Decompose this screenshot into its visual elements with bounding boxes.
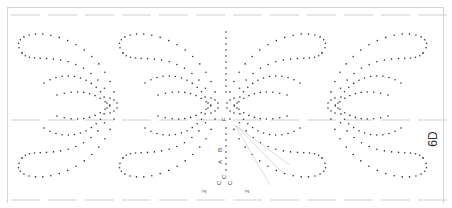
guide-letter: F: [221, 117, 227, 121]
guide-letter: C: [216, 180, 222, 185]
guide-letter: B: [217, 148, 223, 152]
guide-letter: C: [221, 174, 227, 179]
guide-letter: A: [217, 160, 223, 164]
stencil-sheet: FBACCC22 6D: [0, 0, 452, 208]
dot-pattern-art: FBACCC22: [0, 0, 452, 208]
guide-letter: 2: [201, 189, 207, 193]
guide-letter: C: [227, 180, 233, 185]
sheet-code-label: 6D: [426, 131, 440, 146]
guide-letter: 2: [244, 189, 250, 193]
